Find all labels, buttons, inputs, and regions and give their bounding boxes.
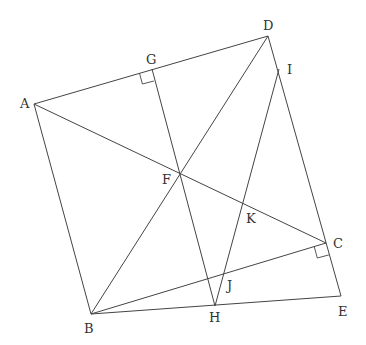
- point-label-b: B: [84, 321, 94, 336]
- segment-bd: [91, 36, 268, 314]
- point-labels: ABCDEFGHIJK: [19, 18, 348, 336]
- point-label-k: K: [246, 211, 256, 226]
- right-angle-marker-g: [140, 73, 154, 84]
- point-label-h: H: [209, 310, 220, 325]
- segment-ab: [34, 104, 91, 314]
- segments: [34, 36, 341, 314]
- point-label-f: F: [162, 172, 171, 187]
- segment-bc: [91, 243, 326, 314]
- point-label-g: G: [146, 52, 156, 67]
- point-label-d: D: [263, 18, 273, 33]
- right-angle-markers: [140, 73, 329, 258]
- geometry-diagram: ABCDEFGHIJK: [0, 0, 366, 345]
- point-label-j: J: [225, 278, 232, 293]
- point-label-e: E: [338, 304, 348, 319]
- point-label-i: I: [287, 62, 292, 77]
- segment-gh: [152, 69, 215, 306]
- right-angle-marker-c: [314, 247, 329, 259]
- segment-ad: [34, 36, 268, 104]
- point-label-c: C: [333, 236, 343, 251]
- point-label-a: A: [19, 96, 30, 111]
